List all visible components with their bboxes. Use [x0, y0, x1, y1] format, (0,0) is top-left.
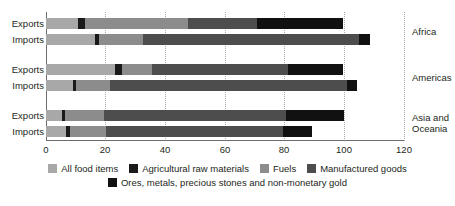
- gridline-120: [404, 12, 406, 141]
- legend-item-manufactured-goods: Manufactured goods: [307, 163, 407, 174]
- gridline-20: [105, 12, 107, 141]
- legend-item-fuels: Fuels: [260, 163, 296, 174]
- region-label-americas: Americas: [412, 72, 452, 83]
- xtick-60: 60: [220, 144, 231, 155]
- legend-label: Fuels: [273, 163, 296, 174]
- legend-item-ores-metals: Ores, metals, precious stones and non-mo…: [108, 177, 347, 188]
- gridline-60: [225, 12, 227, 141]
- bar-segment: [257, 18, 343, 29]
- legend-line-2: Ores, metals, precious stones and non-mo…: [0, 177, 455, 188]
- bar-segment: [359, 34, 370, 45]
- row-label-americas-exports: Exports: [0, 64, 44, 75]
- row-label-asia-exports: Exports: [0, 110, 44, 121]
- bar-segment: [104, 110, 286, 121]
- xtick-20: 20: [100, 144, 111, 155]
- legend-label: Agricultural raw materials: [142, 163, 249, 174]
- axis-line-y: [46, 12, 47, 141]
- bar-row: [46, 80, 357, 91]
- legend-swatch-icon: [48, 164, 57, 173]
- bar-segment: [188, 18, 257, 29]
- bar-segment: [99, 34, 143, 45]
- bar-segment: [78, 18, 85, 29]
- bar-row: [46, 110, 344, 121]
- bar-segment: [115, 64, 122, 75]
- xtick-0: 0: [43, 144, 48, 155]
- bar-segment: [106, 126, 283, 137]
- row-label-africa-imports: Imports: [0, 34, 44, 45]
- stacked-bar-chart: Exports Imports Exports Imports Exports …: [0, 0, 455, 206]
- gridline-80: [284, 12, 286, 141]
- legend-swatch-icon: [307, 164, 316, 173]
- legend-label: All food items: [61, 163, 118, 174]
- bar-segment: [288, 64, 343, 75]
- legend-label: Manufactured goods: [320, 163, 407, 174]
- bar-segment: [46, 80, 73, 91]
- bar-row: [46, 126, 312, 137]
- bar-segment: [283, 126, 312, 137]
- bar-segment: [143, 34, 359, 45]
- region-label-africa: Africa: [412, 26, 436, 37]
- axis-line-x: [46, 140, 404, 141]
- xtick-80: 80: [279, 144, 290, 155]
- legend-item-all-food-items: All food items: [48, 163, 118, 174]
- legend-line-1: All food items Agricultural raw material…: [0, 163, 455, 174]
- bar-row: [46, 18, 343, 29]
- legend-swatch-icon: [260, 164, 269, 173]
- bar-segment: [122, 64, 152, 75]
- legend-label: Ores, metals, precious stones and non-mo…: [121, 177, 347, 188]
- bar-segment: [152, 64, 288, 75]
- bar-segment: [46, 18, 78, 29]
- legend-item-agricultural-raw-materials: Agricultural raw materials: [129, 163, 249, 174]
- region-label-asia-line1: Asia and: [412, 112, 449, 123]
- bar-segment: [70, 126, 106, 137]
- bar-segment: [286, 110, 344, 121]
- bar-segment: [46, 64, 115, 75]
- row-label-asia-imports: Imports: [0, 126, 44, 137]
- bar-segment: [65, 110, 104, 121]
- xtick-120: 120: [396, 144, 412, 155]
- bar-segment: [46, 34, 95, 45]
- row-label-americas-imports: Imports: [0, 80, 44, 91]
- bar-segment: [110, 80, 347, 91]
- chart-legend: All food items Agricultural raw material…: [0, 163, 455, 191]
- legend-swatch-icon: [129, 164, 138, 173]
- xtick-40: 40: [160, 144, 171, 155]
- gridline-40: [165, 12, 167, 141]
- row-label-africa-exports: Exports: [0, 18, 44, 29]
- bar-segment: [76, 80, 110, 91]
- xtick-100: 100: [336, 144, 352, 155]
- bar-segment: [46, 126, 66, 137]
- bar-segment: [85, 18, 188, 29]
- bar-segment: [46, 110, 62, 121]
- bar-row: [46, 34, 370, 45]
- legend-swatch-icon: [108, 178, 117, 187]
- gridline-100: [344, 12, 346, 141]
- bar-row: [46, 64, 343, 75]
- region-label-asia-line2: Oceania: [412, 123, 447, 134]
- bar-segment: [347, 80, 357, 91]
